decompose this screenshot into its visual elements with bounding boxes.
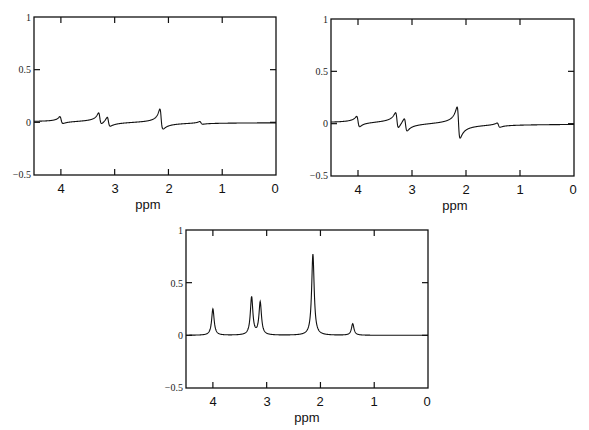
x-tick-label: 2 [316, 394, 323, 409]
x-tick-label: 3 [263, 394, 270, 409]
y-tick-label: 1 [178, 225, 183, 236]
y-tick-label: 0.5 [171, 278, 184, 289]
x-axis-label: ppm [294, 410, 319, 425]
x-tick-label: 4 [209, 394, 216, 409]
y-tick-label: 0 [178, 330, 183, 341]
y-tick-label: −0.5 [165, 382, 183, 393]
spectrum-line [186, 254, 428, 335]
spectrum-panel-absorption-phase: 1 0.5 0 −0.5 4 3 2 1 0 ppm [0, 0, 589, 430]
axis-ticks [186, 230, 428, 388]
spectrum-chart-3: 1 0.5 0 −0.5 4 3 2 1 0 ppm [0, 0, 589, 430]
x-tick-label: 1 [370, 394, 377, 409]
plot-frame [186, 230, 428, 388]
x-tick-label: 0 [423, 394, 430, 409]
